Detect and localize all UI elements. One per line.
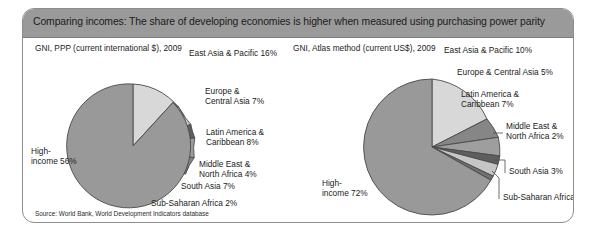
label-east-asia-pacific: East Asia & Pacific 16% xyxy=(189,48,277,58)
label-europe-central-asia: Europe & Central Asia 5% xyxy=(457,67,553,77)
label-latin-america-caribbean: Latin America & Caribbean 7% xyxy=(461,89,519,110)
source-note: Source: World Bank, World Development In… xyxy=(35,210,209,217)
label-south-asia: South Asia 7% xyxy=(181,181,235,191)
chart-panel-gni-atlas: GNI, Atlas method (current US$), 2009 Ea… xyxy=(281,38,574,223)
label-sub-saharan-africa: Sub-Saharan Africa 1% xyxy=(503,192,574,202)
label-high-income: High- income 56% xyxy=(31,146,77,167)
label-east-asia-pacific: East Asia & Pacific 10% xyxy=(444,45,532,55)
figure-title: Comparing incomes: The share of developi… xyxy=(33,16,545,27)
label-middle-east-north-africa: Middle East & North Africa 4% xyxy=(199,159,257,180)
label-europe-central-asia: Europe & Central Asia 7% xyxy=(205,86,264,107)
label-sub-saharan-africa: Sub-Saharan Africa 2% xyxy=(151,198,237,208)
pie-slices-gni-ppp-accurate xyxy=(67,84,195,208)
label-latin-america-caribbean: Latin America & Caribbean 8% xyxy=(206,127,264,148)
label-high-income: High- income 72% xyxy=(322,178,368,199)
figure-container: Comparing incomes: The share of developi… xyxy=(22,8,574,223)
figure-header-bar: Comparing incomes: The share of developi… xyxy=(23,9,573,38)
label-middle-east-north-africa: Middle East & North Africa 2% xyxy=(506,121,564,142)
chart-panel-gni-ppp: GNI, PPP (current international $), 2009… xyxy=(23,38,293,223)
label-south-asia: South Asia 3% xyxy=(509,166,563,176)
